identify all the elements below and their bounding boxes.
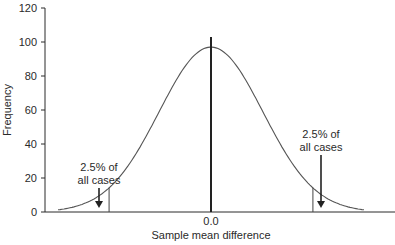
right-annotation-line1: 2.5% of — [302, 128, 340, 140]
y-tick-label: 20 — [25, 172, 37, 184]
right-annotation-line2: all cases — [300, 141, 343, 153]
x-tick-label: 0.0 — [203, 215, 218, 227]
y-tick-label: 0 — [31, 206, 37, 218]
y-tick-label: 40 — [25, 138, 37, 150]
y-tick-label: 100 — [19, 36, 37, 48]
y-ticks: 020406080100120 — [19, 2, 45, 218]
right-arrow-icon — [317, 155, 325, 208]
normal-distribution-chart: 020406080100120 Frequency 2.5% of all ca… — [0, 0, 395, 245]
y-tick-label: 80 — [25, 70, 37, 82]
y-tick-label: 60 — [25, 104, 37, 116]
x-axis-label: Sample mean difference — [151, 229, 270, 241]
y-tick-label: 120 — [19, 2, 37, 14]
left-annotation-line2: all cases — [78, 174, 121, 186]
y-axis-label: Frequency — [1, 84, 13, 136]
left-annotation-line1: 2.5% of — [80, 161, 118, 173]
